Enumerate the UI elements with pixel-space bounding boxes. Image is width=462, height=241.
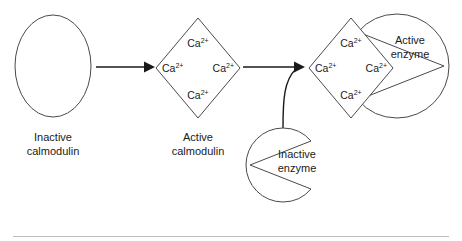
inactive-calmodulin-ellipse — [15, 15, 91, 117]
active-calmodulin-caption-line1: Active — [183, 131, 213, 143]
inactive-enzyme-label-line1: Inactive — [278, 148, 316, 160]
inactive-enzyme-connector — [283, 69, 296, 128]
arrow-1-head — [144, 62, 155, 73]
diagram-canvas: Ca2+ Ca2+ Ca2+ Ca2+ Inactive enzyme Ca2+… — [0, 0, 462, 241]
arrow-2-head — [294, 62, 305, 73]
footer-divider — [13, 236, 449, 237]
active-enzyme-label-line1: Active — [395, 34, 425, 46]
active-calmodulin-caption-line2: calmodulin — [172, 145, 225, 157]
calmodulin-diagram: Ca2+ Ca2+ Ca2+ Ca2+ Inactive enzyme Ca2+… — [0, 0, 462, 241]
inactive-enzyme-label-line2: enzyme — [278, 162, 317, 174]
inactive-calmodulin-caption-line2: calmodulin — [27, 145, 80, 157]
inactive-calmodulin-caption-line1: Inactive — [34, 131, 72, 143]
active-enzyme-label-line2: enzyme — [391, 48, 430, 60]
